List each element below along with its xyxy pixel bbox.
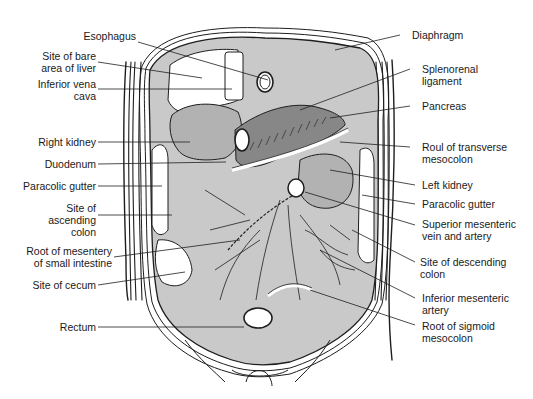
rectum-ring	[244, 308, 272, 328]
label-site-of-ascending-colon: Site of ascending colon	[0, 202, 96, 238]
ascending-colon-site	[152, 145, 168, 235]
label-inferior-vena-cava: Inferior vena cava	[0, 78, 96, 102]
label-rectum: Rectum	[0, 321, 96, 333]
label-right-kidney: Right kidney	[0, 136, 96, 148]
left-body-wall-outline	[124, 62, 128, 300]
inferior-vena-cava-shape	[225, 52, 243, 100]
leader-diaphragm	[335, 35, 400, 50]
label-site-of-cecum: Site of cecum	[0, 279, 96, 291]
right-body-wall-outline	[389, 60, 394, 360]
label-paracolic-gutter-right: Paracolic gutter	[0, 180, 96, 192]
label-site-of-descending-colon: Site of descending colon	[420, 256, 506, 280]
label-pancreas: Pancreas	[422, 100, 466, 112]
label-superior-mesenteric-vein-artery: Superior mesenteric vein and artery	[422, 218, 516, 242]
duodenum-ring	[235, 129, 249, 151]
right-kidney-shape	[170, 104, 242, 160]
label-esophagus: Esophagus	[60, 30, 136, 42]
label-diaphragm: Diaphragm	[412, 29, 463, 41]
label-splenorenal-ligament: Splenorenal ligament	[422, 63, 478, 87]
superior-mesenteric-vessel	[288, 179, 304, 197]
descending-colon-site	[358, 148, 374, 263]
label-root-of-sigmoid-mesocolon: Root of sigmoid mesocolon	[422, 320, 495, 344]
label-paracolic-gutter-left: Paracolic gutter	[422, 198, 495, 210]
label-site-of-bare-area-of-liver: Site of bare area of liver	[0, 50, 96, 74]
label-root-of-transverse-mesocolon: Roul of transverse mesocolon	[422, 141, 507, 165]
label-inferior-mesenteric-artery: Inferior mesenteric artery	[422, 292, 509, 316]
left-kidney-shape	[298, 154, 353, 208]
label-left-kidney: Left kidney	[422, 179, 473, 191]
label-duodenum: Duodenum	[0, 158, 96, 170]
anatomy-figure: Esophagus Site of bare area of liver Inf…	[0, 0, 533, 399]
label-root-of-mesentery: Root of mesentery of small intestine	[0, 245, 112, 269]
